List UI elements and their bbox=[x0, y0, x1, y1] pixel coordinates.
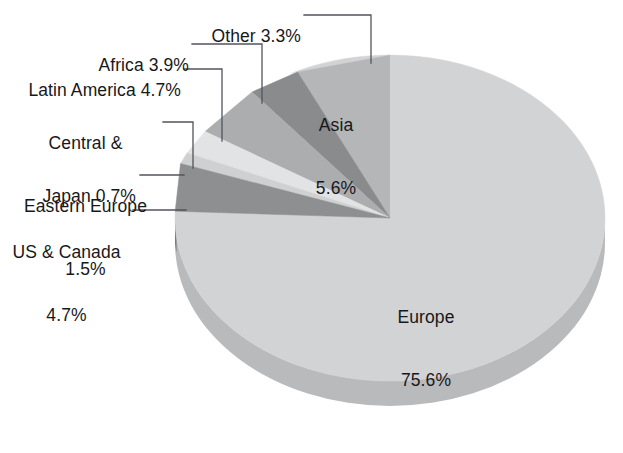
label-other-text: Other 3.3% bbox=[211, 26, 301, 46]
label-asia: Asia 5.6% bbox=[292, 73, 380, 241]
leader-line-other bbox=[304, 15, 371, 63]
label-europe-line2: 75.6% bbox=[380, 370, 472, 391]
pie-chart-figure: Other 3.3% Africa 3.9% Latin America 4.7… bbox=[0, 0, 623, 453]
label-europe: Europe 75.6% bbox=[380, 265, 472, 433]
label-asia-line2: 5.6% bbox=[292, 178, 380, 199]
label-asia-line1: Asia bbox=[292, 115, 380, 136]
label-us-canada-line2: 4.7% bbox=[4, 305, 129, 326]
label-cee-line1: Central & bbox=[8, 133, 163, 154]
label-us-canada: US & Canada 4.7% bbox=[4, 200, 129, 368]
label-europe-line1: Europe bbox=[380, 307, 472, 328]
label-other: Other 3.3% bbox=[192, 5, 301, 68]
label-us-canada-line1: US & Canada bbox=[4, 242, 129, 263]
